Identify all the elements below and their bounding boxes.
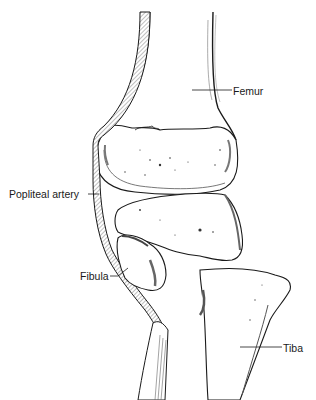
femur-label: Femur: [233, 85, 263, 97]
tibia-bone: [200, 268, 290, 400]
popliteal-artery-label: Popliteal artery: [9, 188, 79, 200]
fibula-label: Fibula: [80, 270, 109, 282]
knee-anatomy-figure: Femur Popliteal artery Fibula Tiba: [0, 0, 316, 400]
anatomy-illustration: [0, 0, 316, 400]
fibula-shaft-fragment: [138, 322, 168, 400]
femur-bone: [96, 12, 238, 194]
tibia-label: Tiba: [283, 342, 303, 354]
